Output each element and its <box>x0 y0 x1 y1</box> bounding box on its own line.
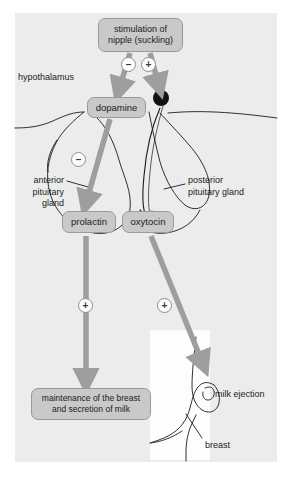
diagram-canvas: stimulation of nipple (suckling) dopamin… <box>0 0 292 478</box>
sign-minus-to-dopamine: – <box>121 57 136 72</box>
sign-minus-dopamine-prolactin: – <box>71 152 86 167</box>
sign-plus-to-neuron: + <box>141 57 156 72</box>
label-hypothalamus: hypothalamus <box>18 72 74 84</box>
label-breast: breast <box>205 440 230 452</box>
node-maintenance-of-breast: maintenance of the breast and secretion … <box>31 388 151 420</box>
sign-plus-oxytocin-breast: + <box>157 298 172 313</box>
label-milk-ejection: milk ejection <box>215 389 270 401</box>
node-prolactin: prolactin <box>62 211 116 233</box>
label-anterior-pituitary-gland: anterior pituitary gland <box>9 175 64 210</box>
node-oxytocin: oxytocin <box>122 211 174 233</box>
node-dopamine: dopamine <box>87 97 146 118</box>
label-posterior-pituitary-gland: posterior pituitary gland <box>188 175 248 198</box>
sign-plus-prolactin-breast: + <box>78 298 93 313</box>
node-stimulation-of-nipple: stimulation of nipple (suckling) <box>98 18 183 52</box>
